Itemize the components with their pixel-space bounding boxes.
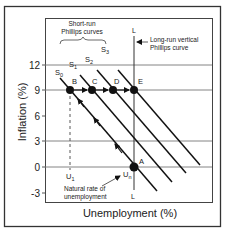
- curve-label-s0: S0: [55, 68, 63, 78]
- curve-labels: S0 S1 S2 S3: [55, 45, 109, 78]
- y-tick-label: 6: [34, 111, 40, 122]
- point-label-a: A: [139, 157, 144, 166]
- phillips-curve-diagram: 12 9 6 3 0 -3 Inflation (%) Unemployment…: [0, 0, 226, 232]
- y-tick-label: 0: [34, 162, 40, 173]
- natural-rate-label-line1: Natural rate of: [64, 185, 105, 192]
- curve-label-s3: S3: [101, 45, 109, 55]
- long-run-label-line1: Long-run vertical: [150, 36, 199, 44]
- u1-label: U1: [66, 172, 74, 182]
- curve-label-s2: S2: [85, 55, 93, 65]
- long-run-label-line2: Phillips curve: [150, 44, 189, 52]
- point-a: [130, 163, 139, 172]
- point-c: [88, 86, 96, 94]
- brace-icon: [60, 37, 106, 44]
- y-tick-label: 3: [34, 136, 40, 147]
- un-label: Un: [123, 170, 131, 180]
- curve-s0: [60, 78, 157, 191]
- y-tick-label: -3: [31, 188, 40, 199]
- point-e: [130, 86, 138, 94]
- point-d: [109, 86, 117, 94]
- equilibrium-points: [66, 86, 139, 172]
- y-tick-labels: 12 9 6 3 0 -3: [29, 60, 41, 199]
- x-axis-label: Unemployment (%): [83, 207, 177, 219]
- short-run-label-line2: Phillips curves: [61, 28, 103, 36]
- long-run-bottom-label: L: [131, 193, 135, 200]
- short-run-curves: [60, 70, 200, 191]
- y-axis-label: Inflation (%): [16, 83, 28, 142]
- point-label-d: D: [114, 77, 120, 86]
- natural-rate-pointer: [102, 176, 120, 186]
- point-label-e: E: [138, 77, 143, 86]
- long-run-top-label: L: [132, 27, 136, 34]
- short-run-label-line1: Short-run: [68, 20, 95, 27]
- curve-label-s1: S1: [69, 60, 77, 70]
- point-label-b: B: [72, 77, 77, 86]
- y-tick-label: 9: [34, 85, 40, 96]
- curve-s3: [118, 70, 200, 165]
- point-b: [66, 86, 74, 94]
- y-ticks: [42, 65, 45, 193]
- natural-rate-label-line2: unemployment: [64, 193, 107, 201]
- point-label-c: C: [92, 77, 98, 86]
- y-tick-label: 12: [29, 60, 41, 71]
